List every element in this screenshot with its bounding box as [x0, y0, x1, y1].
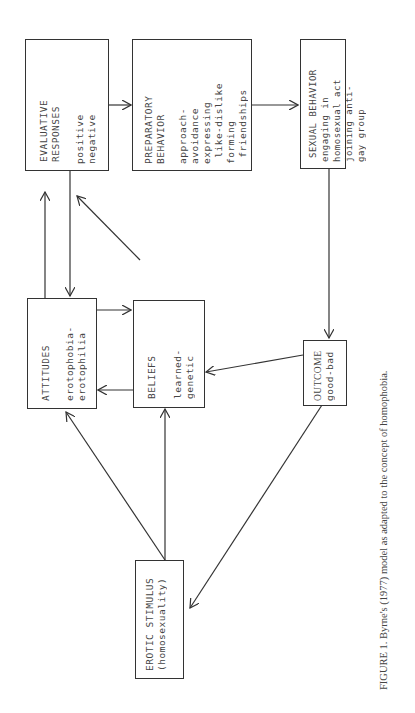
- attitudes-body: erotophobia- erotophilia: [64, 311, 88, 401]
- beliefs-body: learned- genetic: [172, 329, 196, 399]
- erotic-title: EROTIC STIMULUS: [144, 571, 156, 671]
- preparatory-behavior-box: PREPARATORY BEHAVIOR approach- avoidance…: [132, 39, 252, 171]
- outcome-title: OUTCOME: [312, 349, 324, 401]
- beliefs-box: BELIEFS learned- genetic: [133, 300, 205, 408]
- figure-caption: FIGURE 1. Byrne's (1977) model as adapte…: [378, 250, 389, 690]
- arrow-erotic-to-attitudes: [66, 412, 165, 560]
- outcome-box: OUTCOME good-bad: [303, 340, 347, 406]
- attitudes-title: ATTITUDES: [40, 321, 52, 401]
- erotic-stimulus-box: EROTIC STIMULUS (homosexuality): [135, 560, 184, 679]
- sexual-title: SEXUAL BEHAVIOR: [307, 58, 319, 158]
- sexual-behavior-box: SEXUAL BEHAVIOR engaging in homosexual a…: [300, 39, 346, 169]
- arrow-beliefs-to-evaluative: [77, 196, 140, 260]
- outcome-body: good-bad: [324, 349, 336, 401]
- arrow-outcome-to-erotic: [190, 405, 322, 608]
- beliefs-title: BELIEFS: [146, 329, 158, 399]
- preparatory-body: approach- avoidance expressing like-disl…: [177, 60, 249, 164]
- sexual-body: engaging in homosexual act joining anti-…: [319, 50, 367, 162]
- evaluative-title: EVALUATIVE RESPONSES: [38, 62, 62, 162]
- erotic-body: (homosexuality): [156, 571, 168, 671]
- preparatory-title: PREPARATORY BEHAVIOR: [143, 60, 167, 164]
- attitudes-box: ATTITUDES erotophobia- erotophilia: [27, 298, 97, 409]
- arrow-outcome-to-beliefs: [206, 355, 303, 372]
- evaluative-body: positive negative: [74, 74, 98, 164]
- evaluative-responses-box: EVALUATIVE RESPONSES positive negative: [25, 39, 109, 171]
